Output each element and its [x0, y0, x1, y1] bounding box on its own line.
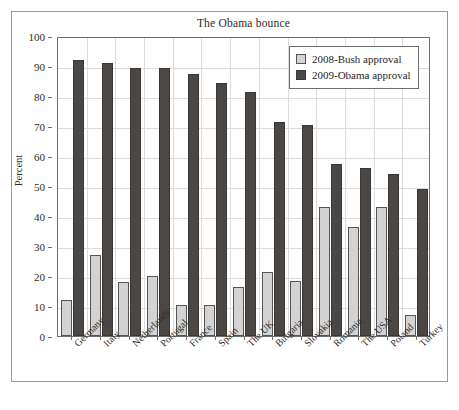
- y-tick-mark: [48, 37, 52, 38]
- chart-title: The Obama bounce: [57, 17, 430, 29]
- x-gridline: [173, 38, 174, 336]
- bar-turkey-obama: [417, 189, 428, 336]
- bar-romania-obama: [331, 164, 342, 337]
- legend-item-obama: 2009-Obama approval: [296, 67, 411, 83]
- legend-label: 2008-Bush approval: [312, 53, 402, 65]
- x-gridline: [201, 38, 202, 336]
- bar-portugal-obama: [159, 68, 170, 337]
- bar-france-obama: [188, 74, 199, 337]
- y-tick-label: 90: [34, 61, 45, 73]
- y-tick-mark: [48, 247, 52, 248]
- bar-netherlands-obama: [130, 68, 141, 337]
- legend-swatch-icon-obama: [296, 70, 306, 80]
- x-axis: GermanyItalyNetherlandsPortugalFranceSpa…: [57, 337, 430, 397]
- y-tick-label: 0: [40, 331, 46, 343]
- y-tick-label: 20: [34, 271, 45, 283]
- y-tick-mark: [48, 97, 52, 98]
- x-gridline: [115, 38, 116, 336]
- bar-the-uk-obama: [245, 92, 256, 337]
- y-tick-label: 10: [34, 301, 45, 313]
- x-tick-mark: [244, 337, 245, 340]
- y-tick-mark: [48, 307, 52, 308]
- legend-swatch-icon-bush: [296, 54, 306, 64]
- bar-the-usa-obama: [360, 168, 371, 336]
- bar-netherlands-bush: [118, 282, 129, 336]
- legend-label: 2009-Obama approval: [312, 69, 411, 81]
- x-gridline: [87, 38, 88, 336]
- y-axis: 0102030405060708090100: [0, 37, 52, 337]
- y-tick-label: 70: [34, 121, 45, 133]
- bar-spain-obama: [216, 83, 227, 337]
- y-tick-mark: [48, 337, 52, 338]
- bar-germany-obama: [73, 60, 84, 336]
- y-tick-mark: [48, 217, 52, 218]
- y-tick-label: 40: [34, 211, 45, 223]
- x-gridline: [259, 38, 260, 336]
- x-gridline: [230, 38, 231, 336]
- bar-bulgaria-obama: [274, 122, 285, 337]
- y-tick-label: 50: [34, 181, 45, 193]
- x-gridline: [144, 38, 145, 336]
- y-tick-mark: [48, 157, 52, 158]
- bar-italy-obama: [102, 63, 113, 336]
- y-tick-mark: [48, 277, 52, 278]
- y-tick-label: 60: [34, 151, 45, 163]
- figure-canvas: The Obama bounce Percent 010203040506070…: [0, 0, 459, 410]
- y-tick-mark: [48, 187, 52, 188]
- y-tick-mark: [48, 127, 52, 128]
- y-tick-label: 30: [34, 241, 45, 253]
- bar-germany-bush: [61, 300, 72, 336]
- bar-slovakia-obama: [302, 125, 313, 337]
- chart-legend: 2008-Bush approval2009-Obama approval: [289, 46, 419, 89]
- y-tick-mark: [48, 67, 52, 68]
- y-tick-label: 80: [34, 91, 45, 103]
- x-tick-mark: [330, 337, 331, 340]
- legend-item-bush: 2008-Bush approval: [296, 51, 411, 67]
- bar-poland-obama: [388, 174, 399, 336]
- y-tick-label: 100: [29, 31, 46, 43]
